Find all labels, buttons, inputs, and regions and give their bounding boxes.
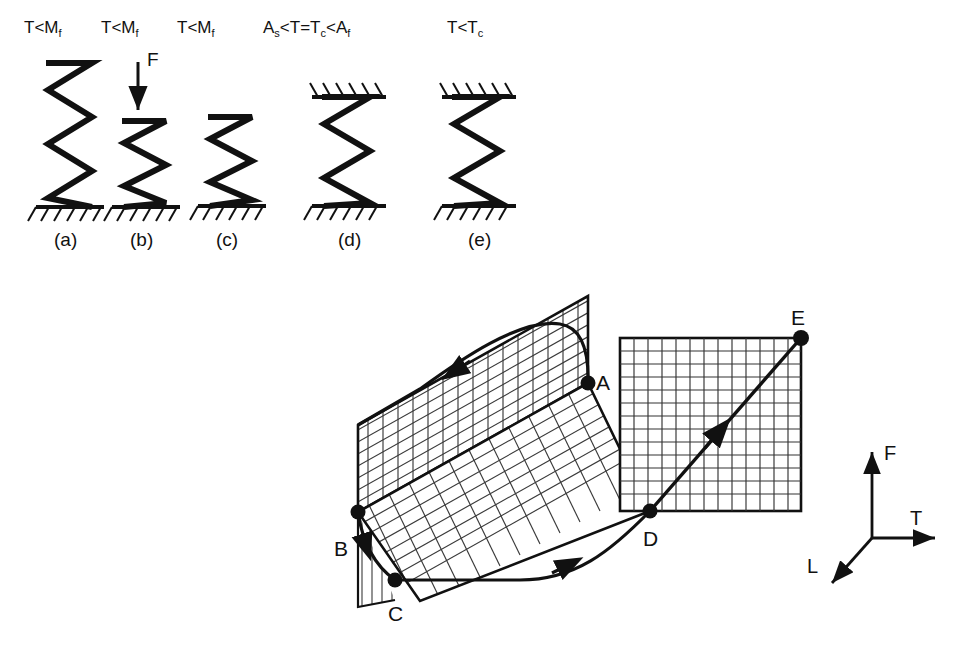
spring-b	[104, 62, 180, 221]
axis-label-f: F	[884, 443, 896, 463]
caption-c: (c)	[216, 230, 238, 249]
point-marker-a	[581, 376, 596, 391]
spring-d	[304, 83, 386, 220]
point-marker-b	[351, 505, 366, 520]
caption-e: (e)	[468, 230, 491, 249]
caption-a: (a)	[54, 230, 77, 249]
point-marker-e	[793, 330, 809, 346]
condition-label-a: T<Mf	[24, 19, 62, 39]
diagram-3d	[340, 280, 809, 640]
condition-label-d: As<T=Tc<Af	[263, 19, 350, 39]
caption-d: (d)	[338, 230, 361, 249]
axis-label-t: T	[910, 508, 922, 528]
condition-label-c: T<Mf	[177, 19, 215, 39]
point-marker-c	[388, 573, 403, 588]
right-plane	[620, 338, 801, 511]
point-label-b: B	[334, 538, 348, 559]
figure-canvas: T<Mf T<Mf T<Mf As<T=Tc<Af T<Tc F (a) (b)…	[0, 0, 963, 646]
caption-b: (b)	[130, 230, 153, 249]
force-label: F	[147, 50, 159, 69]
condition-label-b: T<Mf	[101, 19, 139, 39]
spring-c	[190, 117, 266, 220]
spring-a	[28, 63, 104, 221]
point-label-a: A	[596, 372, 610, 393]
spring-e	[434, 83, 516, 220]
point-label-c: C	[388, 603, 403, 624]
figure-svg	[0, 0, 963, 646]
condition-label-e: T<Tc	[447, 19, 483, 39]
point-label-d: D	[643, 528, 658, 549]
axis-label-l: L	[807, 556, 818, 576]
point-label-e: E	[791, 307, 805, 328]
point-marker-d	[643, 504, 658, 519]
